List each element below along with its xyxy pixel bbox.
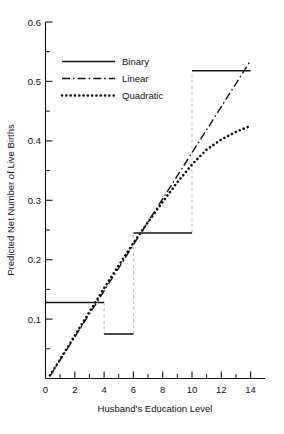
x-axis-title: Husband's Education Level	[98, 403, 213, 414]
y-tick-label: 0.6	[28, 17, 41, 28]
chart-legend: Binary Linear Quadratic	[62, 56, 163, 101]
y-axis-title: Predicted Net Number of Live Births	[5, 124, 16, 276]
chart-plot-area: 0.1 0.2 0.3 0.4 0.5 0.6 0 2 4 6 8 10 12 …	[0, 0, 284, 434]
x-axis-minor-ticks	[60, 374, 236, 379]
x-tick-label: 12	[216, 384, 227, 395]
y-tick-label: 0.3	[28, 195, 41, 206]
x-tick-label: 14	[245, 384, 256, 395]
legend-label-quadratic: Quadratic	[122, 90, 163, 101]
y-axis-tick-labels: 0.1 0.2 0.3 0.4 0.5 0.6	[28, 17, 41, 325]
y-tick-label: 0.1	[28, 314, 41, 325]
binary-step-transitions	[104, 71, 192, 334]
x-axis-tick-labels: 0 2 4 6 8 10 12 14	[43, 384, 256, 395]
x-tick-label: 4	[101, 384, 106, 395]
series-line-quadratic	[50, 126, 251, 376]
x-tick-label: 8	[160, 384, 165, 395]
chart-figure: 0.1 0.2 0.3 0.4 0.5 0.6 0 2 4 6 8 10 12 …	[0, 0, 284, 434]
legend-label-binary: Binary	[122, 56, 149, 67]
x-tick-label: 2	[72, 384, 77, 395]
x-tick-label: 0	[43, 384, 48, 395]
x-tick-label: 10	[187, 384, 198, 395]
legend-label-linear: Linear	[122, 73, 148, 84]
x-tick-label: 6	[131, 384, 136, 395]
y-tick-label: 0.4	[28, 135, 41, 146]
y-tick-label: 0.2	[28, 254, 41, 265]
y-tick-label: 0.5	[28, 76, 41, 87]
